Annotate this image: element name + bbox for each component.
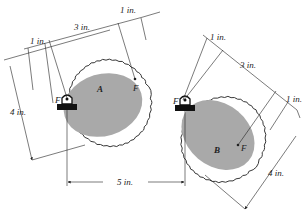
gear-a-label: A: [96, 84, 103, 94]
gear-b-dim-right-offset: 1 in.: [286, 94, 302, 104]
gear-b-dim-focus-spacing: 3 in.: [239, 60, 256, 70]
gear-a-dim-minor-axis: 4 in.: [10, 107, 26, 117]
pivot-distance-label: 5 in.: [117, 177, 133, 187]
gear-a-dim-focus-spacing: 3 in.: [73, 22, 90, 32]
gear-b-dim-minor-axis: 4 in.: [268, 168, 284, 178]
elliptical-gears-diagram: A F F 1 in. 3 in. 1 in. 4 in. B F F: [0, 0, 304, 219]
gear-a-free-focus-label: F: [132, 83, 139, 93]
gear-b-free-focus-label: F: [240, 143, 247, 153]
gear-a-pivot-focus-label: F: [54, 95, 61, 105]
gear-b-dim-left-offset: 1 in.: [210, 32, 226, 42]
gear-b-pivot-focus-label: F: [172, 96, 179, 106]
gear-a-dim-left-offset: 1 in.: [30, 36, 46, 46]
gear-b-label: B: [213, 145, 220, 155]
gear-a-dim-right-offset: 1 in.: [120, 5, 136, 15]
